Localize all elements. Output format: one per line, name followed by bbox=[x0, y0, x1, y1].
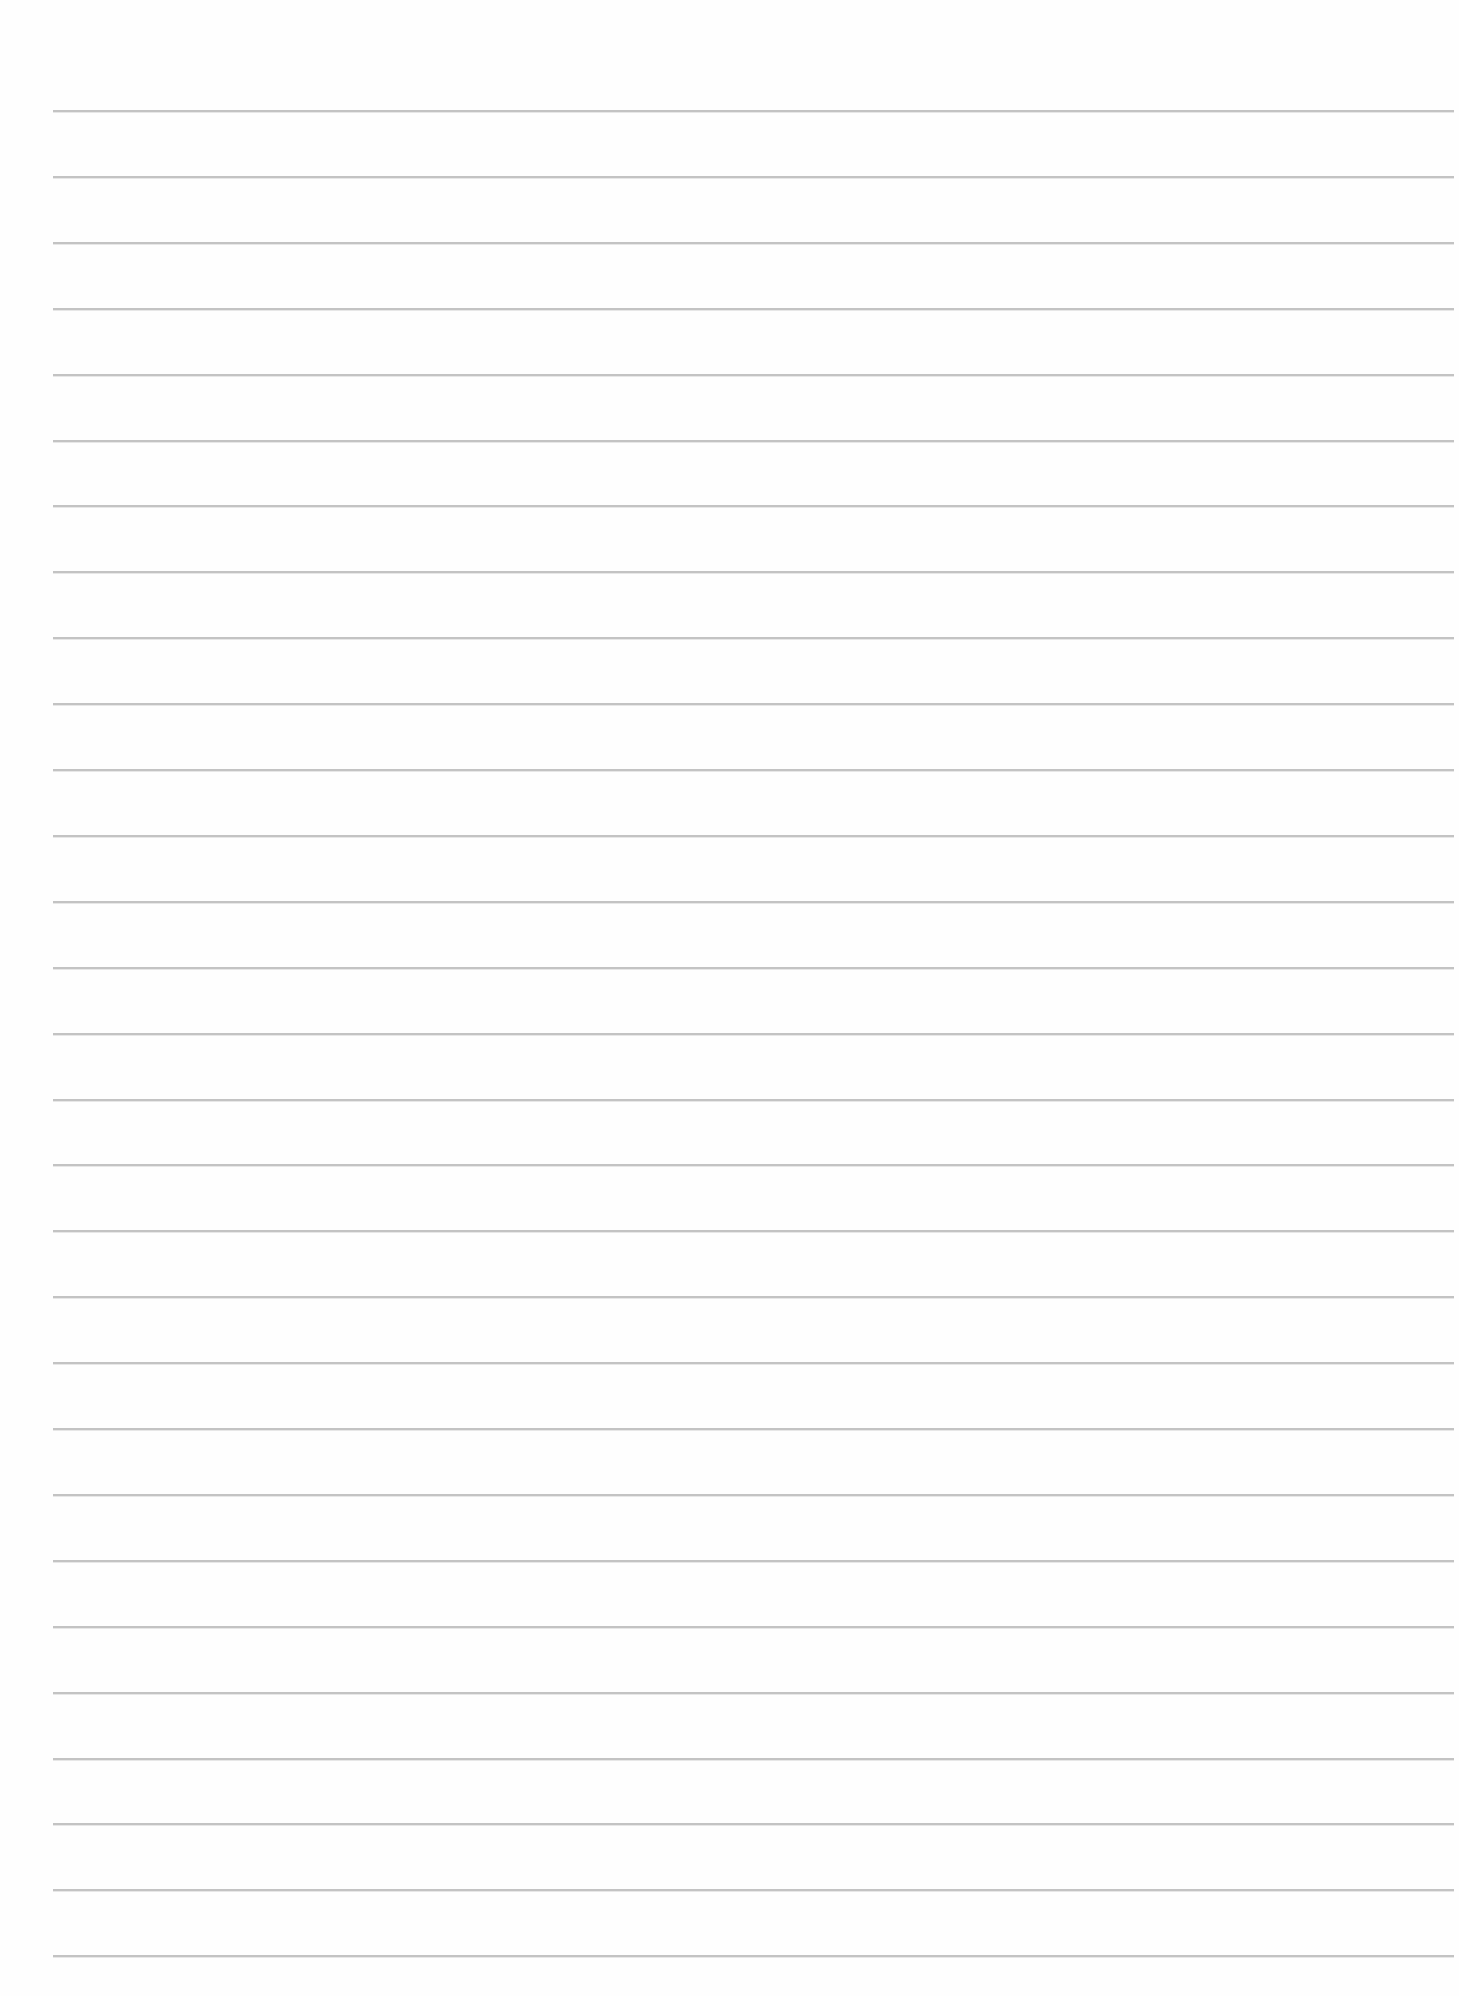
ruled-line bbox=[53, 505, 1454, 507]
ruled-line bbox=[53, 1362, 1454, 1364]
ruled-line bbox=[53, 1296, 1454, 1298]
ruled-line bbox=[53, 1692, 1454, 1694]
ruled-line bbox=[53, 1033, 1454, 1035]
ruled-line bbox=[53, 769, 1454, 771]
ruled-line bbox=[53, 1428, 1454, 1430]
ruled-line bbox=[53, 440, 1454, 442]
ruled-line bbox=[53, 1494, 1454, 1496]
ruled-line bbox=[53, 374, 1454, 376]
lined-paper-page bbox=[0, 0, 1459, 1996]
ruled-line bbox=[53, 110, 1454, 112]
ruled-line bbox=[53, 901, 1454, 903]
ruled-line bbox=[53, 967, 1454, 969]
ruled-line bbox=[53, 571, 1454, 573]
ruled-line bbox=[53, 1099, 1454, 1101]
ruled-line bbox=[53, 1626, 1454, 1628]
ruled-line bbox=[53, 1758, 1454, 1760]
ruled-line bbox=[53, 835, 1454, 837]
ruled-line bbox=[53, 1889, 1454, 1891]
ruled-line bbox=[53, 703, 1454, 705]
ruled-line bbox=[53, 242, 1454, 244]
ruled-line bbox=[53, 1230, 1454, 1232]
ruled-line bbox=[53, 308, 1454, 310]
ruled-line bbox=[53, 1823, 1454, 1825]
ruled-line bbox=[53, 1164, 1454, 1166]
ruled-line bbox=[53, 176, 1454, 178]
ruled-line bbox=[53, 1560, 1454, 1562]
ruled-line bbox=[53, 1955, 1454, 1957]
ruled-line bbox=[53, 637, 1454, 639]
